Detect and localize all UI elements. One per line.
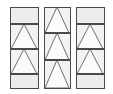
column-middle [44, 7, 70, 88]
column-left [10, 7, 38, 88]
column-right-band-empty-bottom-bg [76, 74, 104, 88]
column-left-band-empty-bottom-bg [10, 74, 38, 88]
columns-layer [10, 7, 104, 88]
column-right [76, 7, 104, 88]
column-right-band-empty-top-bg [76, 7, 104, 24]
column-left-band-empty-top-bg [10, 7, 38, 24]
diagram-canvas [0, 0, 113, 94]
diagram-svg [0, 0, 113, 94]
